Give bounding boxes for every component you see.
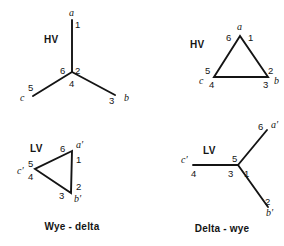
panel-lv-delta: LV a′ 6 1 5 c′ 4 2 3 b′: [17, 139, 84, 204]
hv-delta-terminal-3: 3: [263, 79, 268, 90]
hv-wye-terminal-1: 1: [75, 19, 80, 30]
lv-delta-terminal-2: 2: [76, 181, 81, 192]
wye-arm-b: [238, 165, 268, 207]
wye-arm-c: [33, 72, 72, 96]
hv-delta-terminal-2: 2: [268, 65, 273, 76]
lv-wye-phase-a: a′: [271, 119, 279, 130]
caption-wye-delta: Wye - delta: [45, 221, 100, 232]
diagram-canvas: HV a 1 6 2 4 5 c 3 b HV a 6 1 5 c 4 2 3 …: [0, 0, 284, 246]
lv-wye-terminal-2: 2: [265, 196, 270, 207]
hv-wye-phase-b: b: [124, 92, 129, 103]
lv-wye-side-label: LV: [203, 145, 216, 156]
hv-delta-phase-a: a: [237, 21, 242, 32]
lv-delta-terminal-1: 1: [76, 154, 81, 165]
lv-delta-phase-c: c′: [17, 165, 24, 176]
hv-delta-phase-b: b: [274, 75, 279, 86]
delta-triangle: [214, 36, 268, 77]
lv-wye-terminal-3: 3: [228, 168, 233, 179]
hv-delta-terminal-6: 6: [226, 32, 231, 43]
hv-wye-side-label: HV: [44, 34, 59, 45]
delta-triangle: [35, 151, 72, 193]
lv-wye-phase-b: b′: [266, 207, 274, 218]
lv-wye-terminal-6: 6: [258, 121, 263, 132]
lv-delta-phase-a: a′: [76, 139, 84, 150]
hv-wye-terminal-2: 2: [75, 65, 80, 76]
lv-wye-terminal-5: 5: [232, 153, 237, 164]
hv-wye-terminal-3: 3: [109, 95, 114, 106]
lv-wye-terminal-1: 1: [244, 168, 249, 179]
lv-delta-terminal-3: 3: [59, 190, 64, 201]
lv-wye-phase-c: c′: [181, 154, 188, 165]
hv-delta-phase-c: c: [199, 75, 204, 86]
hv-delta-terminal-5: 5: [205, 65, 210, 76]
hv-wye-terminal-6: 6: [60, 65, 65, 76]
hv-wye-terminal-5: 5: [28, 82, 33, 93]
hv-delta-side-label: HV: [190, 39, 205, 50]
panel-hv-wye: HV a 1 6 2 4 5 c 3 b: [20, 7, 129, 106]
hv-delta-terminal-1: 1: [248, 32, 253, 43]
wye-arm-a: [238, 130, 267, 165]
hv-wye-phase-c: c: [20, 92, 25, 103]
hv-wye-phase-a: a: [69, 7, 74, 18]
lv-delta-terminal-6: 6: [60, 143, 65, 154]
caption-delta-wye: Delta - wye: [195, 223, 250, 234]
lv-delta-terminal-4: 4: [28, 171, 33, 182]
lv-delta-phase-b: b′: [74, 193, 82, 204]
transformer-connection-figure: HV a 1 6 2 4 5 c 3 b HV a 6 1 5 c 4 2 3 …: [0, 0, 284, 246]
hv-wye-terminal-4: 4: [69, 78, 74, 89]
panel-lv-wye: LV a′ 6 5 c′ 4 3 1 2 b′: [181, 119, 279, 218]
hv-delta-terminal-4: 4: [209, 79, 214, 90]
panel-hv-delta: HV a 6 1 5 c 4 2 3 b: [190, 21, 279, 90]
lv-delta-side-label: LV: [30, 143, 43, 154]
lv-wye-terminal-4: 4: [191, 168, 196, 179]
lv-delta-terminal-5: 5: [28, 158, 33, 169]
